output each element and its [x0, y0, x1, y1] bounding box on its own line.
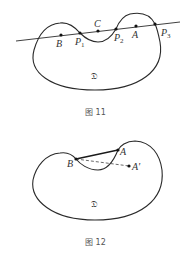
point-B	[74, 157, 77, 160]
label-B: B	[67, 158, 73, 169]
point-A-prime	[127, 164, 130, 167]
point-C	[96, 29, 99, 32]
label-A: A	[119, 146, 127, 157]
figure-caption-12: 图 12	[85, 238, 106, 247]
label-C: C	[94, 18, 101, 29]
figure-11: B P1 C P2 A P3 𝔇 图 11	[16, 13, 180, 117]
label-A: A	[131, 29, 139, 40]
dashed-segment-BA-prime	[76, 159, 129, 166]
label-B: B	[56, 38, 62, 49]
figure-caption-11: 图 11	[85, 108, 106, 117]
label-P2: P2	[113, 32, 124, 45]
label-P1: P1	[74, 36, 85, 49]
region-label-D: 𝔇	[91, 199, 98, 209]
diagram-canvas: B P1 C P2 A P3 𝔇 图 11 B A A' 𝔇 图 12	[0, 0, 191, 258]
label-A-prime: A'	[131, 161, 141, 172]
point-P1	[78, 31, 81, 34]
figure-12: B A A' 𝔇 图 12	[33, 141, 163, 247]
segment-BA	[76, 150, 118, 159]
point-P3	[153, 22, 156, 25]
point-B	[59, 33, 62, 36]
point-P2	[114, 27, 117, 30]
point-A	[134, 24, 137, 27]
region-label-D: 𝔇	[91, 71, 98, 81]
label-P3: P3	[160, 27, 171, 40]
